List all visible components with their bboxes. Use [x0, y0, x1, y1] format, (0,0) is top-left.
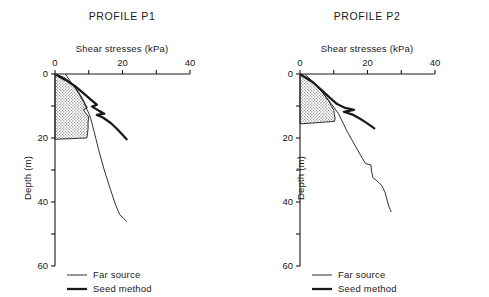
x-tick-label-p2-0: 0: [297, 57, 302, 68]
y-axis-label-p2: Depth (m): [295, 156, 306, 200]
y-tick-label-p1-40: 40: [37, 196, 48, 207]
y-tick-label-p1-20: 20: [37, 132, 48, 143]
plot-area-p1: 020400204060Far sourceSeed method: [0, 0, 244, 297]
x-tick-label-p1-0: 0: [52, 57, 57, 68]
legend-label-p1-1: Seed method: [93, 283, 152, 294]
y-tick-label-p2-20: 20: [282, 132, 293, 143]
legend-label-p2-1: Seed method: [338, 283, 397, 294]
chart-panel-p2: PROFILE P2 Shear stresses (kPa) 02040020…: [245, 0, 489, 297]
chart-panel-p1: PROFILE P1 Shear stresses (kPa) Depth (m…: [0, 0, 244, 297]
y-tick-label-p2-0: 0: [288, 68, 293, 79]
figure-root: PROFILE P1 Shear stresses (kPa) Depth (m…: [0, 0, 489, 297]
legend-label-p1-0: Far source: [93, 269, 140, 280]
x-tick-label-p1-20: 20: [117, 57, 128, 68]
x-tick-label-p2-20: 20: [362, 57, 373, 68]
y-tick-label-p2-40: 40: [282, 196, 293, 207]
y-tick-label-p2-60: 60: [282, 260, 293, 271]
x-tick-label-p1-40: 40: [185, 57, 196, 68]
x-tick-label-p2-40: 40: [430, 57, 441, 68]
plot-area-p2: 020400204060Far sourceSeed method: [245, 0, 489, 297]
y-tick-label-p1-0: 0: [43, 68, 48, 79]
y-tick-label-p1-60: 60: [37, 260, 48, 271]
legend-label-p2-0: Far source: [338, 269, 385, 280]
